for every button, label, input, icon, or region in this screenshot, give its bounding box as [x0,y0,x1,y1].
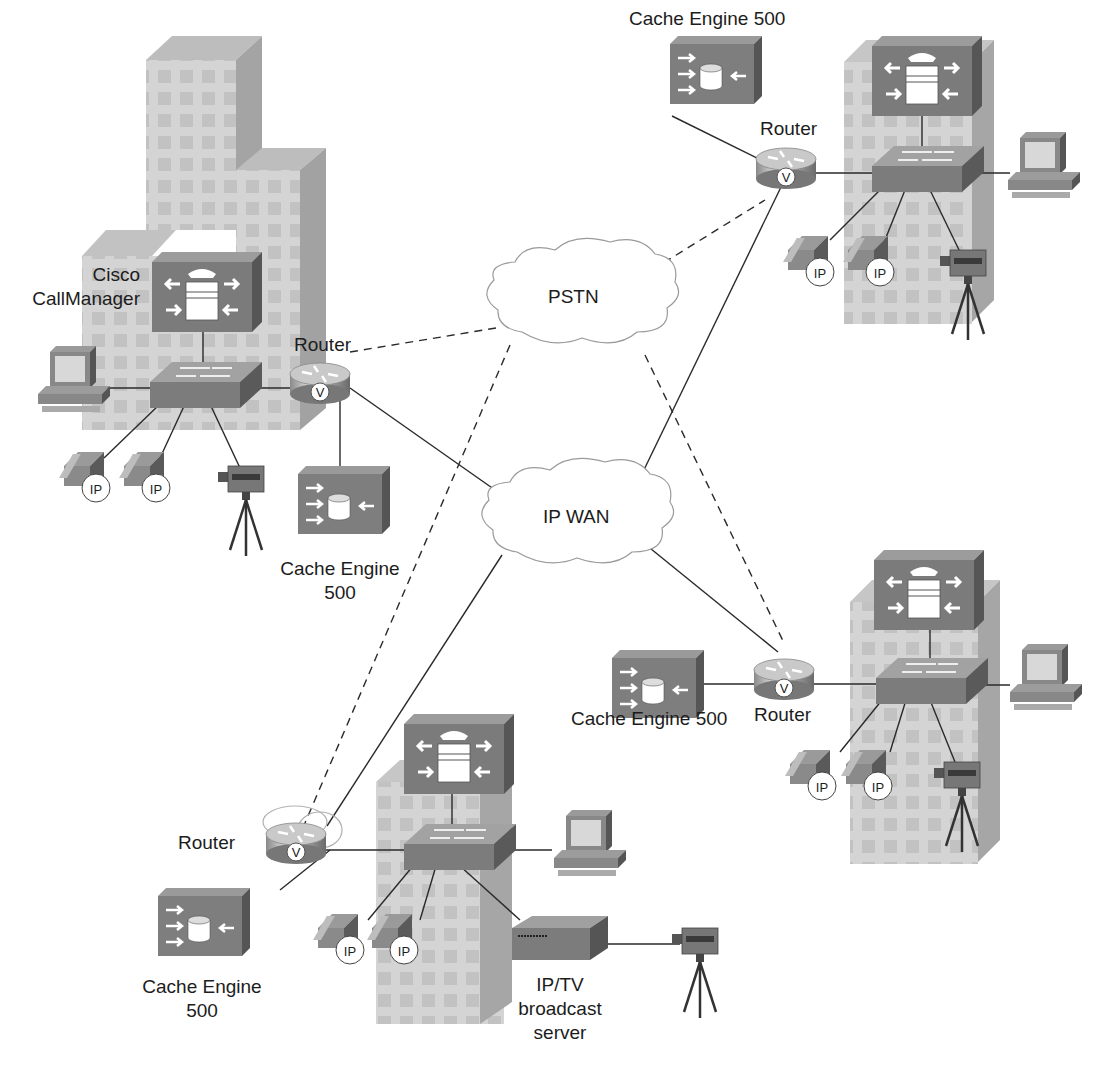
branch-mid-right-phone-1-badge: IP [812,777,832,799]
hq-router-label: Router [294,334,351,356]
iptv-label-line3: server [500,1022,620,1044]
hq-router-v-badge: V [312,382,328,404]
branch-bottom-cache-label-line1: Cache Engine [130,976,274,998]
branch-mid-right-switch [876,658,988,704]
branch-bottom-callmanager [404,714,514,794]
hq-callmanager-label-line2: CallManager [20,288,140,310]
hq-cache-engine [298,466,390,534]
ipwan-cloud-label: IP WAN [543,506,610,528]
branch-bottom-pc [554,810,626,876]
branch-mid-right-pc [1010,644,1082,710]
branch-top-right-pc [1008,132,1080,198]
branch-bottom-router-label: Router [178,832,235,854]
branch-mid-right-callmanager [874,550,984,630]
iptv-label-line1: IP/TV [500,974,620,996]
branch-bottom-phone-1-badge: IP [340,941,360,963]
branch-mid-right-router-label: Router [754,704,811,726]
hq-phone-2-badge: IP [146,479,166,501]
branch-top-right-router-label: Router [760,118,817,140]
branch-bottom-phone-2-badge: IP [394,941,414,963]
branch-bottom-cache-engine [158,888,250,956]
hq-phone-1-badge: IP [86,479,106,501]
iptv-broadcast-server [512,916,608,960]
branch-top-right-cache-label: Cache Engine 500 [629,8,785,30]
branch-bottom-video-camera [672,928,718,1018]
branch-bottom-cache-label-line2: 500 [130,1000,274,1022]
branch-mid-right-cache-label: Cache Engine 500 [571,708,727,730]
branch-top-right-router-v-badge: V [778,167,794,189]
hq-video-camera [218,466,264,556]
network-diagram: PSTN IP WAN Cisco CallManager Router Cac… [0,0,1106,1066]
hq-callmanager [152,252,262,332]
branch-bottom-router-v-badge: V [288,842,304,864]
branch-mid-right-phone-2-badge: IP [868,777,888,799]
branch-mid-right-router-v-badge: V [776,678,792,700]
hq-cache-label-line1: Cache Engine [268,558,412,580]
branch-bottom-switch [404,824,516,870]
branch-top-right-switch [872,146,984,192]
branch-top-right-phone-1-badge: IP [810,263,830,285]
hq-callmanager-label-line1: Cisco [60,264,140,286]
iptv-label-line2: broadcast [500,998,620,1020]
diagram-canvas [0,0,1106,1066]
branch-top-right-phone-2-badge: IP [870,263,890,285]
branch-top-right-callmanager [872,36,982,116]
hq-cache-label-line2: 500 [268,582,412,604]
pstn-cloud-label: PSTN [548,286,599,308]
hq-switch [150,362,262,408]
branch-top-right-cache-engine [670,36,762,104]
